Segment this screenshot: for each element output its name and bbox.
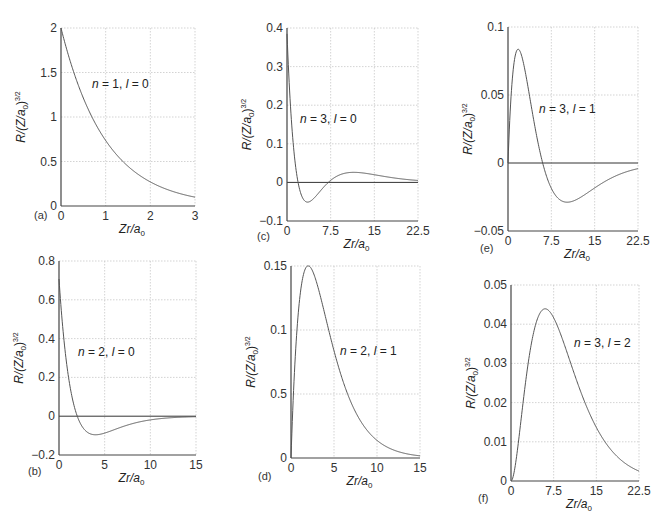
curve-annotation: n = 3, l = 2 [574,336,631,350]
x-tick-label: 7.5 [543,234,560,248]
y-tick-label: 0.8 [38,254,55,268]
x-axis-label: Zr/a0 [346,474,373,490]
y-tick-label: 1.5 [40,66,57,80]
panel-letter: (c) [257,230,270,242]
y-tick-label: 0.3 [266,60,283,74]
grid-lines [511,285,639,481]
y-tick-label: 0.1 [270,323,287,337]
x-tick-label: 7.5 [545,484,562,498]
y-tick-label: 0.6 [38,293,55,307]
y-axis-label: R/(Z/a0)3/2 [464,357,480,409]
y-tick-label: 0 [280,451,287,465]
y-tick-label: 0 [500,474,507,488]
y-tick-label: 0 [48,409,55,423]
curve-R10 [61,28,195,197]
y-tick-label: 2 [50,21,57,35]
y-tick-label: 0.5 [40,155,57,169]
panel-letter: (b) [28,465,41,477]
curve-R32 [511,309,639,481]
x-tick-label: 0 [58,209,65,223]
y-tick-label: 0.15 [264,259,288,273]
x-axis-label: Zr/a0 [563,247,590,263]
panel-letter: (e) [480,242,493,254]
panel-d: 05101500.50.10.15Zr/a0R/(Z/a0)3/2n = 2, … [244,259,427,490]
curve-annotation: n = 2, l = 1 [340,344,397,358]
x-tick-label: 0 [284,224,291,238]
x-tick-label: 15 [590,484,604,498]
x-axis-label: Zr/a0 [118,471,145,487]
y-tick-label: 0.03 [484,356,508,370]
panel-f: 07.51522.500.010.020.030.040.05Zr/a0R/(Z… [464,278,651,513]
y-tick-label: 0 [50,199,57,213]
y-tick-label: 0.05 [481,88,505,102]
x-tick-label: 5 [331,461,338,475]
curve-R31 [508,49,638,202]
panel-letter: (f) [478,492,488,504]
x-tick-label: 2 [147,209,154,223]
y-tick-label: 0.1 [487,20,504,34]
curve-R21 [291,266,420,458]
y-tick-label: 1 [50,110,57,124]
y-tick-label: 0.05 [484,278,508,292]
y-axis-label: R/(Z/a0)3/2 [461,103,477,155]
x-tick-label: 0 [508,484,515,498]
x-tick-label: 22.5 [406,224,430,238]
x-tick-label: 10 [144,458,158,472]
x-tick-label: 15 [413,461,427,475]
panel-e: 07.51522.5−0.0500.050.1Zr/a0R/(Z/a0)3/2n… [461,20,650,263]
y-tick-label: 0.4 [266,21,283,35]
y-tick-label: 0.01 [484,435,508,449]
grid-lines [508,27,638,231]
radial-wavefunction-figure: 012300.511.52Zr/a0R/(Z/a0)3/2n = 1, l = … [0,0,669,524]
panel-letter: (d) [258,470,271,482]
y-axis-label: R/(Z/a0)3/2 [14,91,30,143]
y-axis-label: R/(Z/a0)3/2 [240,99,256,151]
y-tick-label: 0 [497,156,504,170]
x-tick-label: 15 [588,234,602,248]
y-tick-label: −0.2 [31,448,55,462]
y-tick-label: −0.1 [259,214,283,228]
x-axis-label: Zr/a0 [118,222,145,238]
x-tick-label: 7.5 [322,224,339,238]
y-tick-label: 0.04 [484,317,508,331]
panel-b: 051015−0.200.20.40.60.8Zr/a0R/(Z/a0)3/2n… [12,254,203,487]
x-tick-label: 15 [368,224,382,238]
x-tick-label: 0 [288,461,295,475]
y-axis-label: R/(Z/a0)3/2 [12,332,28,384]
y-axis-label: R/(Z/a0)3/2 [244,336,260,388]
x-tick-label: 5 [101,458,108,472]
y-tick-label: 0.1 [266,137,283,151]
x-tick-label: 0 [505,234,512,248]
grid-lines [61,28,195,206]
panel-letter: (a) [34,209,47,221]
y-tick-label: 0.02 [484,396,508,410]
panel-c: 07.51522.5−0.100.10.20.30.4Zr/a0R/(Z/a0)… [240,21,430,253]
curve-annotation: n = 1, l = 0 [92,77,149,91]
y-tick-label: 0.2 [266,98,283,112]
x-tick-label: 0 [56,458,63,472]
x-tick-label: 22.5 [626,234,650,248]
curve-annotation: n = 3, l = 0 [300,112,357,126]
y-tick-label: 0.5 [270,387,287,401]
curve-annotation: n = 2, l = 0 [78,345,135,359]
x-tick-label: 22.5 [627,484,651,498]
x-tick-label: 3 [192,209,199,223]
x-tick-label: 15 [189,458,203,472]
x-axis-label: Zr/a0 [565,497,592,513]
panel-a: 012300.511.52Zr/a0R/(Z/a0)3/2n = 1, l = … [14,21,199,238]
y-tick-label: −0.05 [474,224,505,238]
y-tick-label: 0.2 [38,370,55,384]
y-tick-label: 0.4 [38,332,55,346]
curve-annotation: n = 3, l = 1 [539,102,596,116]
x-tick-label: 10 [370,461,384,475]
x-tick-label: 1 [102,209,109,223]
x-axis-label: Zr/a0 [343,237,370,253]
y-tick-label: 0 [276,175,283,189]
grid-lines [291,266,420,458]
